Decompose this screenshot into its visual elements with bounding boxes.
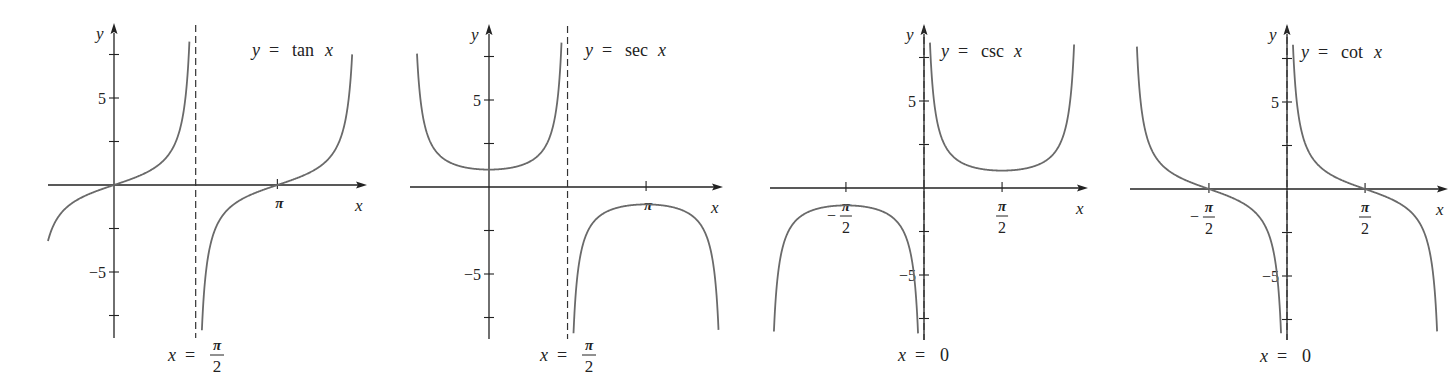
figure-canvas: xy5−5πx=π2y=tanx xy5−5πx=π2y=secx xy5−5π… bbox=[0, 0, 1454, 390]
svg-text:cot: cot bbox=[1341, 42, 1363, 62]
svg-text:y: y bbox=[583, 40, 593, 60]
x-tick-label: π2− bbox=[827, 198, 852, 236]
svg-text:2: 2 bbox=[213, 357, 222, 376]
svg-text:tan: tan bbox=[292, 40, 314, 60]
y-tick-label: 5 bbox=[473, 92, 481, 109]
panel-cot: xy5−5π2−π2x=0y=cotx bbox=[1130, 24, 1448, 366]
svg-text:π: π bbox=[998, 198, 1007, 214]
panel-tan: xy5−5πx=π2y=tanx bbox=[48, 23, 367, 376]
asymptote-label: x=π2 bbox=[167, 337, 224, 376]
y-tick-label: 5 bbox=[908, 93, 916, 110]
y-axis-label: y bbox=[94, 24, 104, 43]
y-axis-label: y bbox=[469, 25, 479, 44]
asymptote-label: x=0 bbox=[897, 345, 949, 365]
svg-text:2: 2 bbox=[585, 357, 594, 376]
x-tick-label: π2 bbox=[996, 198, 1008, 236]
function-label: y=cscx bbox=[939, 41, 1022, 61]
svg-text:2: 2 bbox=[1361, 220, 1369, 237]
svg-text:sec: sec bbox=[625, 40, 648, 60]
svg-text:π: π bbox=[275, 195, 284, 211]
svg-text:π: π bbox=[585, 337, 594, 353]
svg-text:=: = bbox=[915, 345, 925, 365]
svg-text:−: − bbox=[1190, 208, 1199, 225]
x-tick-label: π2 bbox=[1359, 199, 1371, 237]
function-label: y=tanx bbox=[250, 40, 333, 60]
function-curve bbox=[1137, 47, 1281, 334]
y-axis-label: y bbox=[1267, 25, 1277, 44]
svg-text:=: = bbox=[269, 40, 279, 60]
function-curve bbox=[202, 54, 352, 330]
svg-text:0: 0 bbox=[1302, 346, 1311, 366]
svg-text:π: π bbox=[1361, 199, 1370, 215]
y-axis-arrow-icon bbox=[486, 24, 493, 35]
svg-text:2: 2 bbox=[1205, 220, 1213, 237]
svg-text:2: 2 bbox=[998, 219, 1006, 236]
trig-graphs-figure: xy5−5πx=π2y=tanx xy5−5πx=π2y=secx xy5−5π… bbox=[0, 0, 1454, 390]
svg-text:=: = bbox=[958, 41, 968, 61]
asymptote-label: x=0 bbox=[1259, 346, 1311, 366]
svg-text:2: 2 bbox=[842, 219, 850, 236]
svg-text:x: x bbox=[1013, 41, 1022, 61]
asymptote-label: x=π2 bbox=[539, 337, 596, 376]
y-tick-label: 5 bbox=[98, 90, 106, 107]
svg-text:=: = bbox=[185, 345, 195, 365]
x-axis-label: x bbox=[354, 196, 363, 215]
x-axis-label: x bbox=[1075, 199, 1084, 218]
y-tick-label: −5 bbox=[464, 266, 481, 283]
svg-text:=: = bbox=[1277, 346, 1287, 366]
y-tick-label: −5 bbox=[89, 264, 106, 281]
svg-text:x: x bbox=[1259, 346, 1268, 366]
svg-text:y: y bbox=[1299, 42, 1309, 62]
y-axis-label: y bbox=[904, 25, 914, 44]
svg-text:y: y bbox=[939, 41, 949, 61]
svg-text:y: y bbox=[250, 40, 260, 60]
svg-text:x: x bbox=[657, 40, 666, 60]
function-label: y=cotx bbox=[1299, 42, 1382, 62]
panel-csc: xy5−5π2−π2x=0y=cscx bbox=[770, 24, 1088, 365]
svg-text:x: x bbox=[1373, 42, 1382, 62]
svg-text:=: = bbox=[1318, 42, 1328, 62]
x-tick-label: π2− bbox=[1190, 199, 1215, 237]
x-tick-label: π bbox=[275, 195, 284, 211]
svg-text:=: = bbox=[602, 40, 612, 60]
svg-text:π: π bbox=[1205, 199, 1214, 215]
function-curve bbox=[1293, 45, 1437, 332]
svg-text:π: π bbox=[213, 337, 222, 353]
function-label: y=secx bbox=[583, 40, 666, 60]
svg-text:−: − bbox=[827, 207, 836, 224]
y-tick-label: 5 bbox=[1271, 94, 1279, 111]
x-axis-label: x bbox=[710, 198, 719, 217]
svg-text:csc: csc bbox=[981, 41, 1004, 61]
function-curve bbox=[574, 204, 719, 333]
svg-text:x: x bbox=[897, 345, 906, 365]
svg-text:=: = bbox=[557, 345, 567, 365]
function-curve bbox=[930, 43, 1074, 171]
svg-text:0: 0 bbox=[940, 345, 949, 365]
svg-text:x: x bbox=[167, 345, 176, 365]
y-axis-arrow-icon bbox=[111, 23, 118, 34]
panel-sec: xy5−5πx=π2y=secx bbox=[410, 24, 723, 376]
svg-text:x: x bbox=[539, 345, 548, 365]
svg-text:x: x bbox=[324, 40, 333, 60]
x-axis-label: x bbox=[1435, 200, 1444, 219]
